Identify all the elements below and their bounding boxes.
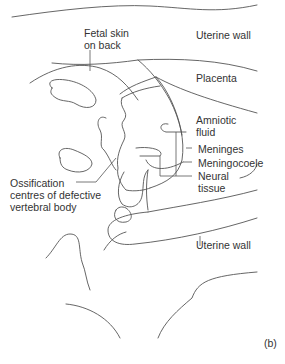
meninges-sac-upper <box>161 124 186 132</box>
panel-label: (b) <box>264 337 277 349</box>
spine-lower-line <box>147 170 149 210</box>
label-uterine-wall-bottom: Uterine wall <box>196 239 251 251</box>
label-amniotic-2: fluid <box>196 126 215 138</box>
tissue-band-lower <box>122 86 160 98</box>
label-ossification-2: centres of defective <box>10 189 101 201</box>
label-uterine-wall-top: Uterine wall <box>196 29 251 41</box>
lower-curve-3 <box>66 304 120 338</box>
label-placenta: Placenta <box>196 72 237 84</box>
meningocoele-outline <box>146 160 183 169</box>
lower-curve-2 <box>104 232 126 250</box>
lower-curve-4 <box>158 272 257 338</box>
label-neural-2: tissue <box>198 182 225 194</box>
leader-ossification <box>76 158 116 182</box>
ossification-centre-left <box>98 117 116 170</box>
uterine-wall-top-line <box>12 5 257 17</box>
meninges-sac-mid <box>136 147 161 156</box>
left-blob-lower <box>59 148 92 172</box>
fetal-back-skin <box>30 65 138 100</box>
ossification-centre-large <box>117 98 150 191</box>
label-amniotic-1: Amniotic <box>196 114 236 126</box>
label-fetal-skin-2: on back <box>84 39 121 51</box>
label-meningocoele: Meningocoele <box>198 157 263 169</box>
tissue-band-upper <box>120 77 156 94</box>
label-ossification-3: vertebral body <box>10 201 77 213</box>
left-blob-upper <box>50 79 96 107</box>
label-neural-1: Neural <box>198 170 229 182</box>
label-fetal-skin-1: Fetal skin <box>84 27 129 39</box>
label-meninges: Meninges <box>198 143 244 155</box>
lower-curve-1 <box>46 234 90 290</box>
vertebral-body-block <box>118 170 148 207</box>
label-ossification-1: Ossification <box>10 177 64 189</box>
ultrasound-diagram: Fetal skin on back Uterine wall Placenta… <box>0 0 285 364</box>
